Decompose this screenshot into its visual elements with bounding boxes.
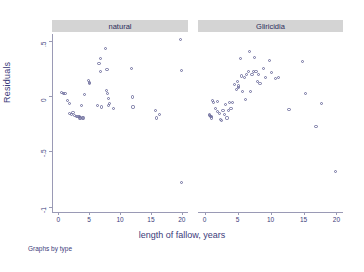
x-tick-mark	[120, 212, 121, 215]
scatter-point	[63, 92, 66, 95]
x-tick-label: 0	[48, 216, 68, 223]
x-tick-label: 10	[261, 216, 281, 223]
scatter-point	[180, 181, 183, 184]
x-tick-mark	[58, 212, 59, 215]
y-tick-label: -.5	[40, 150, 47, 158]
scatter-point	[225, 116, 228, 119]
scatter-point	[107, 97, 110, 100]
x-tick-mark	[304, 212, 305, 215]
y-tick-mark	[49, 96, 52, 97]
x-tick-mark	[238, 212, 239, 215]
x-tick-label: 20	[172, 216, 192, 223]
y-tick-label: 0	[40, 98, 47, 102]
panel-title-gliricidia: Gliricidia	[198, 20, 343, 32]
x-tick-mark	[182, 212, 183, 215]
x-tick-mark	[271, 212, 272, 215]
x-tick-label: 5	[228, 216, 248, 223]
x-tick-label: 0	[195, 216, 215, 223]
x-tick-mark	[151, 212, 152, 215]
x-tick-label: 15	[294, 216, 314, 223]
scatter-point	[104, 47, 107, 50]
y-axis-line	[52, 34, 53, 212]
scatter-point	[180, 69, 183, 72]
scatter-point	[264, 76, 267, 79]
y-axis-title: Residuals	[2, 3, 12, 103]
y-tick-mark	[49, 207, 52, 208]
y-tick-label: .5	[40, 41, 47, 46]
scatter-point	[154, 109, 157, 112]
y-tick-label: -1	[40, 207, 47, 213]
scatter-point	[131, 105, 134, 108]
graph-figure: Residuals natural Gliricidia .50-.5-1 05…	[0, 0, 364, 272]
scatter-point	[221, 109, 224, 112]
scatter-point	[239, 57, 242, 60]
x-tick-label: 5	[79, 216, 99, 223]
scatter-point	[231, 101, 234, 104]
y-tick-mark	[49, 41, 52, 42]
scatter-point	[100, 105, 103, 108]
scatter-point	[277, 76, 280, 79]
graph-caption: Graphs by type	[28, 245, 72, 252]
scatter-point	[247, 70, 250, 73]
scatter-point	[131, 95, 134, 98]
scatter-point	[218, 112, 221, 115]
x-tick-label: 20	[326, 216, 346, 223]
panel-title-natural: natural	[52, 20, 188, 32]
x-tick-label: 15	[141, 216, 161, 223]
scatter-point	[229, 107, 232, 110]
x-tick-mark	[336, 212, 337, 215]
x-tick-label: 10	[110, 216, 130, 223]
scatter-point	[244, 98, 247, 101]
x-tick-mark	[205, 212, 206, 215]
plot-area-natural	[52, 34, 188, 212]
scatter-point	[99, 70, 102, 73]
scatter-point	[155, 116, 158, 119]
x-tick-mark	[89, 212, 90, 215]
x-axis-title: length of fallow, years	[0, 230, 364, 240]
y-tick-mark	[49, 151, 52, 152]
scatter-point	[105, 68, 108, 71]
scatter-point	[287, 108, 290, 111]
scatter-point	[301, 60, 304, 63]
scatter-point	[334, 170, 337, 173]
scatter-point	[268, 59, 271, 62]
scatter-point	[82, 116, 85, 119]
